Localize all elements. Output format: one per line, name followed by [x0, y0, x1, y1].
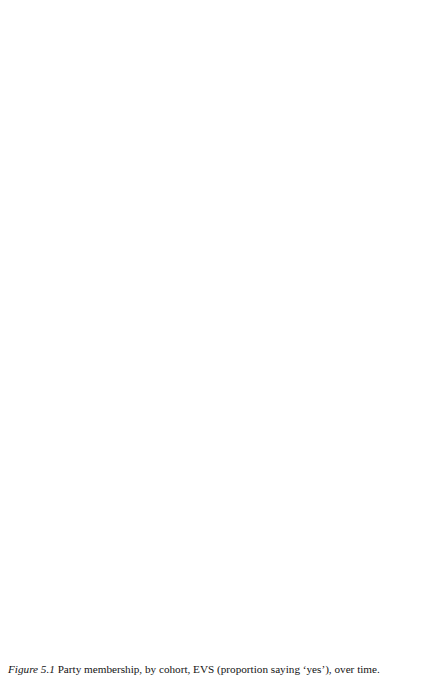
chart-legend [0, 612, 434, 658]
figure-caption: Figure 5.1 Party membership, by cohort, … [8, 662, 428, 676]
figure-caption-text: Party membership, by cohort, EVS (propor… [58, 663, 380, 675]
figure-party-membership: Figure 5.1 Party membership, by cohort, … [0, 0, 434, 688]
figure-number: Figure 5.1 [8, 663, 55, 675]
